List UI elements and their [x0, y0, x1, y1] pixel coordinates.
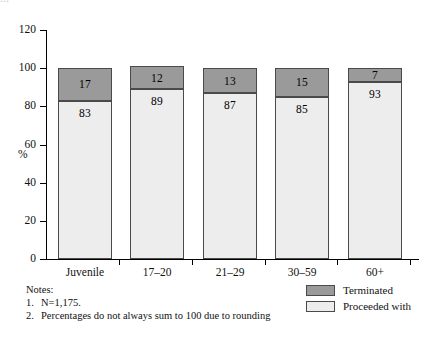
- bar-value-label: 17: [79, 78, 91, 90]
- bar-segment-terminated[interactable]: 15: [275, 68, 329, 97]
- y-axis-tick: [40, 259, 47, 260]
- y-axis-tick-label: 20: [2, 215, 36, 227]
- y-axis-tick-label-wrap: 40: [0, 177, 36, 189]
- bar-segment-proceeded-with[interactable]: 93: [348, 82, 402, 259]
- bar-segment-terminated[interactable]: 7: [348, 68, 402, 81]
- note-text: N=1,175.: [41, 296, 296, 309]
- x-axis-tick: [265, 260, 266, 265]
- bar-segment-proceeded-with[interactable]: 89: [130, 89, 184, 259]
- bar-segment-terminated[interactable]: 12: [130, 66, 184, 89]
- note-number: 2.: [26, 309, 41, 322]
- y-axis-tick-label: 120: [2, 24, 36, 36]
- bar-juvenile[interactable]: 8317: [58, 30, 112, 259]
- bar-segment-proceeded-with[interactable]: 85: [275, 97, 329, 259]
- bar-60-[interactable]: 937: [348, 30, 402, 259]
- note-text: Percentages do not always sum to 100 due…: [41, 309, 296, 322]
- x-axis-tick: [337, 260, 338, 265]
- y-axis-tick-label-wrap: 120: [0, 24, 36, 36]
- legend-item[interactable]: Proceeded with: [306, 299, 411, 313]
- y-axis-tick-label: 100: [2, 62, 36, 74]
- notes-block: Notes: 1.N=1,175.2.Percentages do not al…: [26, 283, 296, 322]
- bar-segment-proceeded-with[interactable]: 83: [58, 101, 112, 259]
- legend-swatch-icon: [306, 285, 335, 296]
- bar-value-label: 87: [224, 99, 236, 111]
- y-axis-tick-label-wrap: 20: [0, 215, 36, 227]
- plot-area: 8317891287138515937: [46, 30, 418, 259]
- bar-segment-terminated[interactable]: 13: [203, 68, 257, 93]
- notes-heading: Notes:: [26, 283, 296, 296]
- x-axis-line: [46, 259, 419, 260]
- bar-value-label: 7: [372, 69, 378, 81]
- x-axis-tick: [119, 260, 120, 265]
- y-axis-tick-label: 40: [2, 177, 36, 189]
- bar-segment-terminated[interactable]: 17: [58, 68, 112, 100]
- bar-value-label: 89: [151, 95, 163, 107]
- bar-value-label: 15: [296, 76, 308, 88]
- legend-label: Proceeded with: [343, 300, 411, 312]
- x-axis-tick: [192, 260, 193, 265]
- note-item: 2.Percentages do not always sum to 100 d…: [26, 309, 296, 322]
- y-axis-tick-label-wrap: 0: [0, 253, 36, 265]
- y-axis-tick-label-wrap: 80: [0, 100, 36, 112]
- bar-17-20[interactable]: 8912: [130, 30, 184, 259]
- bar-value-label: 85: [296, 103, 308, 115]
- bar-value-label: 13: [224, 75, 236, 87]
- note-number: 1.: [26, 296, 41, 309]
- bar-21-29[interactable]: 8713: [203, 30, 257, 259]
- y-axis-tick-label: 80: [2, 100, 36, 112]
- y-axis-label: %: [18, 148, 28, 160]
- cropped-title-fragment: …: [0, 0, 437, 2]
- bar-value-label: 12: [151, 72, 163, 84]
- y-axis-tick-label-wrap: 100: [0, 62, 36, 74]
- x-axis-category-label: 30–59: [262, 266, 342, 278]
- legend-label: Terminated: [343, 284, 393, 296]
- bar-segment-proceeded-with[interactable]: 87: [203, 93, 257, 259]
- x-axis-category-label: Juvenile: [45, 266, 125, 278]
- x-axis-category-label: 17–20: [117, 266, 197, 278]
- bar-value-label: 83: [79, 107, 91, 119]
- bar-30-59[interactable]: 8515: [275, 30, 329, 259]
- x-axis-category-label: 60+: [335, 266, 415, 278]
- bar-value-label: 93: [369, 88, 381, 100]
- note-item: 1.N=1,175.: [26, 296, 296, 309]
- x-axis-category-label: 21–29: [190, 266, 270, 278]
- y-axis-tick-label: 0: [2, 253, 36, 265]
- legend-swatch-icon: [306, 301, 335, 312]
- chart-legend: TerminatedProceeded with: [306, 283, 411, 315]
- notes-list: 1.N=1,175.2.Percentages do not always su…: [26, 296, 296, 322]
- chart-figure: … 020406080100120 % 8317891287138515937 …: [0, 0, 437, 341]
- x-axis-tick: [410, 260, 411, 265]
- legend-item[interactable]: Terminated: [306, 283, 411, 297]
